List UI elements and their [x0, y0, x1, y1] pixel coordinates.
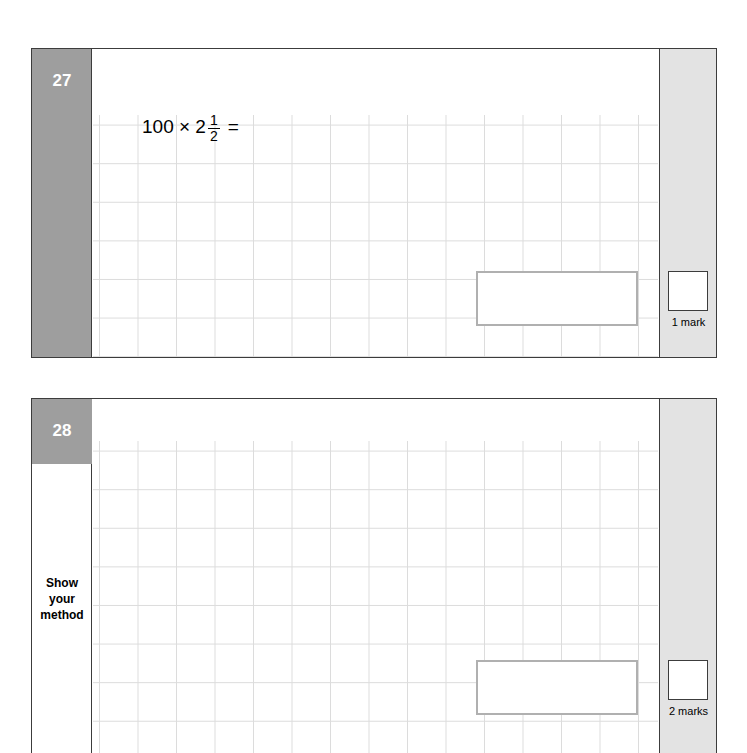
fraction-numerator: 1 [208, 113, 220, 128]
marker-tick-box-28[interactable] [668, 660, 708, 700]
answer-box-27[interactable] [476, 271, 638, 326]
marks-label-28: 2 marks [660, 705, 717, 717]
question-block-27: 27 100 × 2 1 2 = 1 mark [31, 48, 717, 358]
question-number-28: 28 [32, 421, 92, 441]
marks-label-27: 1 mark [660, 316, 717, 328]
show-method-instruction: Show your method [32, 575, 92, 623]
equals-sign: = [228, 116, 239, 138]
answer-box-28[interactable] [476, 660, 638, 715]
grid-top-mask [93, 399, 658, 441]
grid-top-mask [93, 49, 658, 115]
marker-tick-box-27[interactable] [668, 271, 708, 311]
show-method-line-1: Show [32, 575, 92, 591]
question-number-column-27: 27 [32, 49, 92, 357]
show-method-line-2: your [32, 591, 92, 607]
show-method-line-3: method [32, 607, 92, 623]
fraction-one-half: 1 2 [208, 113, 220, 143]
question-block-28: 28 Show your method 2 2 7 0 4 2 marks [31, 398, 717, 753]
question-number-27: 27 [32, 71, 92, 91]
marks-column-27: 1 mark [659, 49, 716, 357]
expression-left: 100 × 2 [142, 116, 206, 138]
question-number-column-28: 28 Show your method [32, 399, 92, 753]
exam-page: 27 100 × 2 1 2 = 1 mark 28 [0, 0, 747, 753]
marks-column-28: 2 marks [659, 399, 716, 753]
question-text-27: 100 × 2 1 2 = [142, 112, 239, 142]
expression-27: 100 × 2 1 2 = [142, 112, 239, 142]
fraction-denominator: 2 [208, 128, 220, 144]
